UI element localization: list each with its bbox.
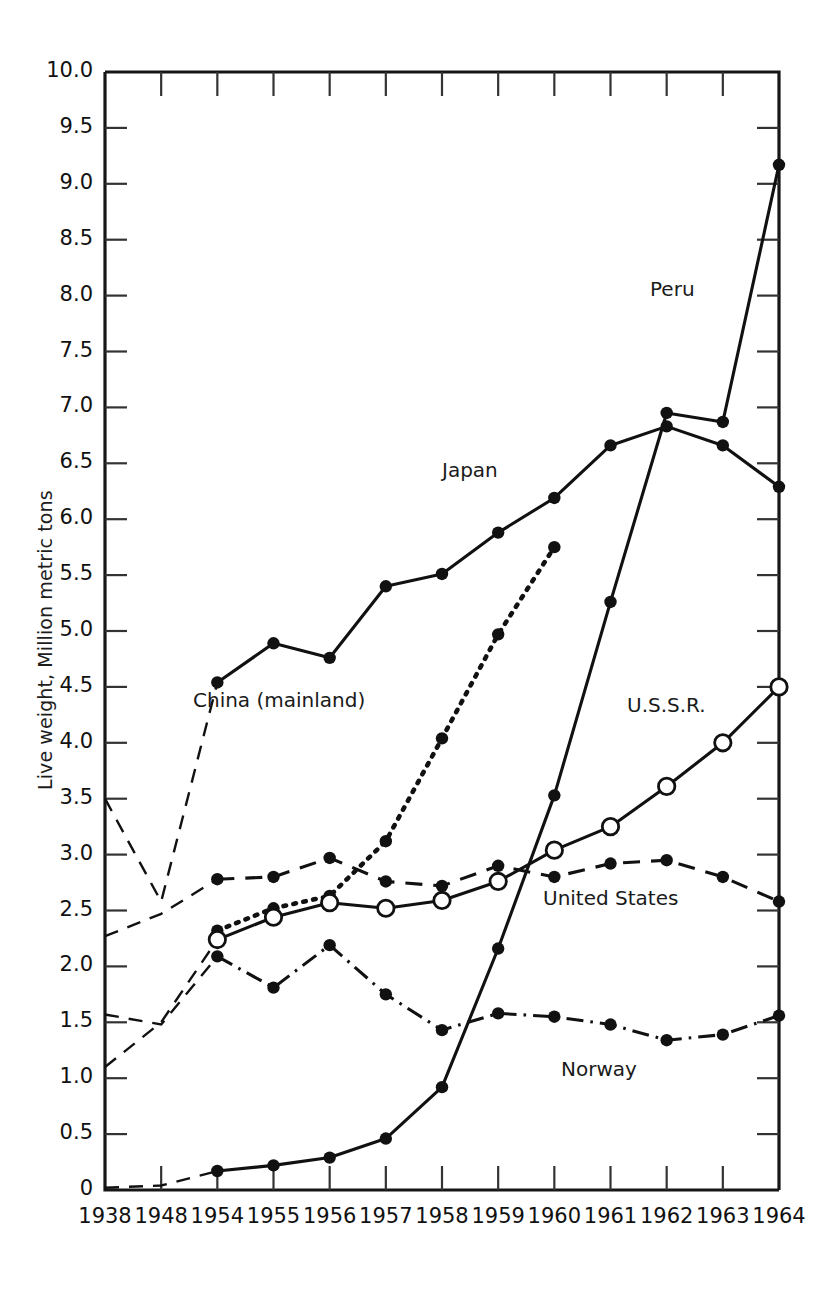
data-point [267, 637, 279, 649]
data-point [773, 159, 785, 171]
data-point [492, 860, 504, 872]
data-point [717, 871, 729, 883]
data-point [492, 1007, 504, 1019]
data-point-open [546, 842, 562, 858]
chart-plot-area [0, 0, 834, 1290]
data-point [660, 1034, 672, 1046]
data-point [380, 580, 392, 592]
y-axis-title: Live weight, Million metric tons [34, 490, 56, 790]
data-point-open [209, 931, 225, 947]
plot-frame [105, 72, 779, 1190]
y-axis-tick-label: 8.5 [60, 226, 93, 250]
data-point-open [378, 900, 394, 916]
data-point [211, 1165, 223, 1177]
data-point [380, 988, 392, 1000]
y-axis-tick-label: 4.5 [60, 673, 93, 697]
y-axis-tick-label: 0.5 [60, 1120, 93, 1144]
data-point [323, 1151, 335, 1163]
data-point [323, 652, 335, 664]
data-point [604, 857, 616, 869]
series-line [217, 945, 779, 1040]
data-point-open [715, 735, 731, 751]
y-axis-tick-label: 8.0 [60, 282, 93, 306]
series-leadin-line [105, 940, 217, 1067]
y-axis-tick-label: 6.5 [60, 449, 93, 473]
data-point-open [658, 778, 674, 794]
y-axis-tick-label: 2.0 [60, 952, 93, 976]
y-axis-tick-label: 0 [80, 1176, 93, 1200]
data-point [267, 1159, 279, 1171]
series-leadin-line [105, 879, 217, 936]
series-line [217, 547, 554, 930]
y-axis-tick-label: 9.0 [60, 170, 93, 194]
data-point [211, 950, 223, 962]
data-point [492, 526, 504, 538]
data-point [267, 871, 279, 883]
data-point [604, 1018, 616, 1030]
data-point [604, 439, 616, 451]
series-leadin-line [105, 682, 217, 901]
data-point [492, 628, 504, 640]
data-point [548, 492, 560, 504]
data-point [436, 568, 448, 580]
data-point [436, 880, 448, 892]
data-point [548, 871, 560, 883]
data-point-open [265, 909, 281, 925]
series-label-u-s-s-r: U.S.S.R. [627, 693, 706, 717]
y-axis-tick-label: 4.0 [60, 729, 93, 753]
data-point [380, 835, 392, 847]
data-point [604, 596, 616, 608]
y-axis-tick-label: 7.5 [60, 338, 93, 362]
data-point [211, 873, 223, 885]
data-point [773, 481, 785, 493]
series-japan [105, 420, 785, 901]
data-point [717, 439, 729, 451]
series-label-united-states: United States [543, 886, 678, 910]
series-label-norway: Norway [561, 1057, 637, 1081]
series-line [217, 426, 779, 682]
fisheries-catch-line-chart: 00.51.01.52.02.53.03.54.04.55.05.56.06.5… [0, 0, 834, 1290]
data-point [717, 1028, 729, 1040]
data-point [548, 1011, 560, 1023]
data-point [436, 1024, 448, 1036]
data-point [436, 732, 448, 744]
data-point [380, 1132, 392, 1144]
data-point [548, 541, 560, 553]
series-label-japan: Japan [442, 458, 498, 482]
data-point [773, 1009, 785, 1021]
y-axis-tick-label: 9.5 [60, 114, 93, 138]
data-point [660, 420, 672, 432]
y-axis-tick-label: 5.0 [60, 617, 93, 641]
data-point-open [321, 894, 337, 910]
data-point-open [771, 679, 787, 695]
data-point-open [490, 873, 506, 889]
data-point [773, 895, 785, 907]
data-point [660, 854, 672, 866]
series-label-china-mainland: China (mainland) [193, 688, 365, 712]
y-axis-tick-label: 3.0 [60, 841, 93, 865]
data-point [660, 407, 672, 419]
data-point [267, 981, 279, 993]
data-point [548, 789, 560, 801]
y-axis-tick-label: 2.5 [60, 897, 93, 921]
y-axis-tick-label: 7.0 [60, 393, 93, 417]
y-axis-tick-label: 6.0 [60, 505, 93, 529]
data-point [211, 676, 223, 688]
y-axis-tick-label: 1.0 [60, 1064, 93, 1088]
data-point [436, 1081, 448, 1093]
data-point [380, 875, 392, 887]
data-point [323, 939, 335, 951]
series-line [217, 165, 779, 1171]
y-axis-tick-label: 3.5 [60, 785, 93, 809]
y-axis-tick-label: 5.5 [60, 561, 93, 585]
y-axis-tick-label: 1.5 [60, 1008, 93, 1032]
y-axis-tick-label: 10.0 [46, 58, 93, 82]
data-point [492, 942, 504, 954]
data-point [323, 852, 335, 864]
series-label-peru: Peru [650, 277, 695, 301]
data-point [717, 416, 729, 428]
data-point-open [602, 818, 618, 834]
x-axis-tick-label: 1964 [739, 1204, 819, 1228]
data-point-open [434, 892, 450, 908]
